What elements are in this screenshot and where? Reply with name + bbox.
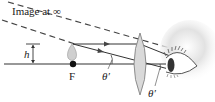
focal-point-dot	[70, 61, 76, 67]
magnifier-diagram: Image at ∞ h F θ′ θ′	[0, 0, 215, 102]
angle-label-right: θ′	[148, 87, 156, 99]
angle-label-left: θ′	[102, 70, 110, 82]
object-flame	[68, 44, 77, 61]
image-at-infinity-label: Image at ∞	[12, 5, 61, 17]
ray-parallel-arrow	[104, 42, 110, 47]
diagram-canvas: Image at ∞ h F θ′ θ′	[0, 0, 215, 102]
converging-lens	[134, 33, 146, 95]
height-label: h	[24, 48, 30, 60]
height-arrow-up	[31, 45, 35, 48]
angle-arc-left	[111, 55, 112, 64]
eye-iris	[168, 58, 175, 72]
focal-point-label: F	[69, 70, 75, 82]
height-arrow-down	[31, 60, 35, 63]
angle-leader-right	[155, 68, 160, 86]
dashed-ray-lower	[2, 20, 75, 44]
